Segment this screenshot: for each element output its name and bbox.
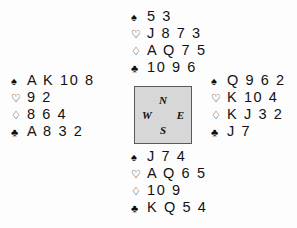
north-clubs-row: ♣ 10 9 6 [131, 59, 207, 76]
south-spades-row: ♠ J 7 4 [131, 148, 207, 165]
south-diamonds-ranks: 10 9 [147, 182, 182, 199]
east-hearts-ranks: K 10 4 [227, 89, 279, 106]
hand-west: ♠ A K 10 8 ♡ 9 2 ♢ 8 6 4 ♣ A 8 3 2 [11, 72, 95, 140]
club-icon: ♣ [131, 200, 144, 217]
south-diamonds-row: ♢ 10 9 [131, 182, 207, 199]
west-spades-ranks: A K 10 8 [27, 72, 95, 89]
diamond-icon: ♢ [131, 183, 144, 200]
heart-icon: ♡ [11, 90, 24, 107]
spade-icon: ♠ [211, 73, 224, 90]
east-spades-row: ♠ Q 9 6 2 [211, 72, 286, 89]
west-hearts-row: ♡ 9 2 [11, 89, 95, 106]
west-clubs-ranks: A 8 3 2 [27, 123, 83, 140]
compass-label-west: W [142, 110, 152, 121]
spade-icon: ♠ [131, 9, 144, 26]
heart-icon: ♡ [131, 26, 144, 43]
north-spades-ranks: 5 3 [147, 8, 172, 25]
east-diamonds-row: ♢ K J 3 2 [211, 106, 286, 123]
compass-box: N W E S [134, 86, 192, 144]
spade-icon: ♠ [131, 149, 144, 166]
hand-east: ♠ Q 9 6 2 ♡ K 10 4 ♢ K J 3 2 ♣ J 7 [211, 72, 286, 140]
west-spades-row: ♠ A K 10 8 [11, 72, 95, 89]
east-clubs-row: ♣ J 7 [211, 123, 286, 140]
heart-icon: ♡ [211, 90, 224, 107]
compass-label-north: N [159, 95, 167, 106]
diamond-icon: ♢ [211, 107, 224, 124]
club-icon: ♣ [211, 124, 224, 141]
north-diamonds-ranks: A Q 7 5 [147, 42, 207, 59]
compass-label-east: E [177, 110, 184, 121]
compass-label-south: S [160, 125, 166, 136]
west-diamonds-ranks: 8 6 4 [27, 106, 67, 123]
club-icon: ♣ [11, 124, 24, 141]
south-hearts-row: ♡ A Q 6 5 [131, 165, 207, 182]
west-diamonds-row: ♢ 8 6 4 [11, 106, 95, 123]
north-hearts-ranks: J 8 7 3 [147, 25, 202, 42]
north-clubs-ranks: 10 9 6 [147, 59, 197, 76]
north-diamonds-row: ♢ A Q 7 5 [131, 42, 207, 59]
north-spades-row: ♠ 5 3 [131, 8, 207, 25]
south-hearts-ranks: A Q 6 5 [147, 165, 207, 182]
hand-south: ♠ J 7 4 ♡ A Q 6 5 ♢ 10 9 ♣ K Q 5 4 [131, 148, 207, 216]
east-hearts-row: ♡ K 10 4 [211, 89, 286, 106]
north-hearts-row: ♡ J 8 7 3 [131, 25, 207, 42]
heart-icon: ♡ [131, 166, 144, 183]
south-spades-ranks: J 7 4 [147, 148, 186, 165]
east-clubs-ranks: J 7 [227, 123, 251, 140]
diamond-icon: ♢ [11, 107, 24, 124]
spade-icon: ♠ [11, 73, 24, 90]
club-icon: ♣ [131, 60, 144, 77]
bridge-hand-diagram: ♠ 5 3 ♡ J 8 7 3 ♢ A Q 7 5 ♣ 10 9 6 ♠ A K… [0, 0, 297, 228]
south-clubs-ranks: K Q 5 4 [147, 199, 207, 216]
east-diamonds-ranks: K J 3 2 [227, 106, 283, 123]
west-clubs-row: ♣ A 8 3 2 [11, 123, 95, 140]
east-spades-ranks: Q 9 6 2 [227, 72, 286, 89]
west-hearts-ranks: 9 2 [27, 89, 52, 106]
south-clubs-row: ♣ K Q 5 4 [131, 199, 207, 216]
diamond-icon: ♢ [131, 43, 144, 60]
hand-north: ♠ 5 3 ♡ J 8 7 3 ♢ A Q 7 5 ♣ 10 9 6 [131, 8, 207, 76]
